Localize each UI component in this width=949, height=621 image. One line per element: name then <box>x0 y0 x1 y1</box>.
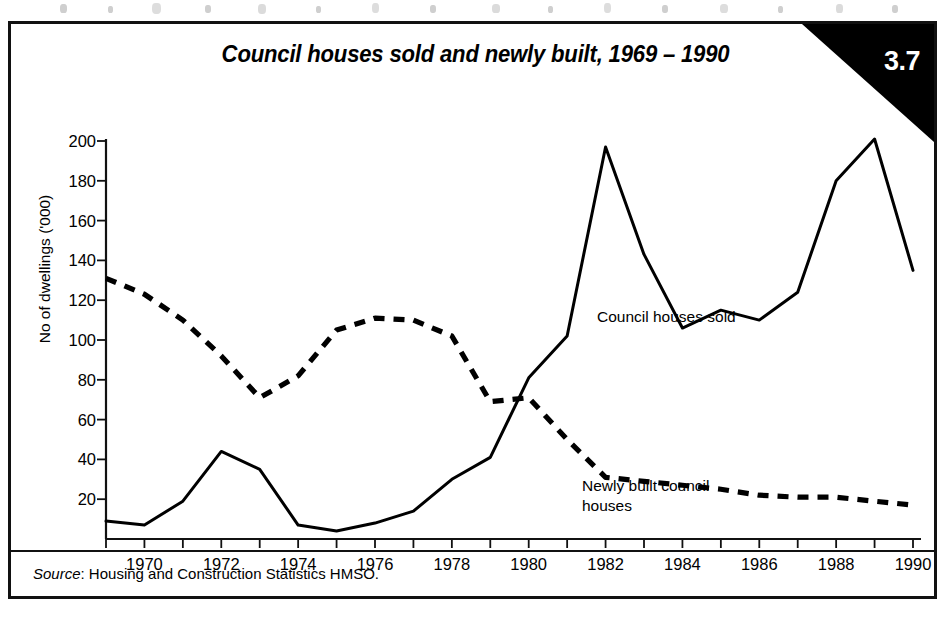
series-annotation-built: Newly built council houses <box>582 476 710 517</box>
series-line-1 <box>106 139 913 531</box>
plot-area: No of dwellings ('000) 20406080100120140… <box>11 24 937 599</box>
chart-axes <box>97 139 921 548</box>
page-title: Council houses sold and newly built, 196… <box>48 40 903 68</box>
source-prefix: Source <box>33 565 81 582</box>
scan-noise-band <box>0 0 949 20</box>
series-annotation-sold: Council houses sold <box>597 307 736 327</box>
figure-number-badge: 3.7 <box>884 46 920 77</box>
chart-canvas <box>11 24 937 599</box>
source-text: : Housing and Construction Statistics HM… <box>81 565 379 582</box>
chart-series <box>106 139 913 531</box>
series-line-2 <box>106 278 913 505</box>
chart-figure: 3.7 Council houses sold and newly built,… <box>8 21 937 599</box>
source-note: Source: Housing and Construction Statist… <box>33 565 379 582</box>
source-divider <box>11 550 937 552</box>
